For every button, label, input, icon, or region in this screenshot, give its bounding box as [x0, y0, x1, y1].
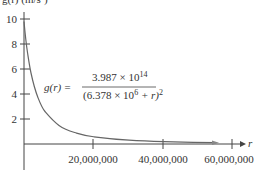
formula-lhs: g(r) = — [44, 81, 71, 94]
gravity-chart: g(r) (m/s²) r 10 8 6 4 2 20,000,000 40,0… — [0, 0, 257, 170]
x-tick-label: 20,000,000 — [68, 153, 118, 165]
x-tick-label: 60,000,000 — [204, 153, 254, 165]
y-tick-label: 8 — [12, 38, 18, 50]
x-tick-labels: 20,000,000 40,000,000 60,000,000 — [68, 153, 254, 165]
formula-annotation: g(r) = 3.987 × 1014 (6.378 × 106 + r)2 — [44, 70, 163, 102]
y-tick-label: 4 — [12, 88, 18, 100]
formula-denominator: (6.378 × 106 + r)2 — [83, 88, 163, 102]
y-tick-label: 2 — [12, 113, 18, 125]
y-tick-label: 10 — [6, 13, 18, 25]
y-tick-labels: 10 8 6 4 2 — [6, 13, 18, 125]
formula-numerator: 3.987 × 1014 — [92, 70, 147, 83]
chart-header-clipped: g(r) (m/s²) — [2, 0, 48, 6]
x-axis-arrow-icon — [240, 141, 246, 147]
x-axis-label: r — [248, 137, 253, 149]
x-tick-label: 40,000,000 — [138, 153, 188, 165]
y-tick-label: 6 — [12, 63, 18, 75]
